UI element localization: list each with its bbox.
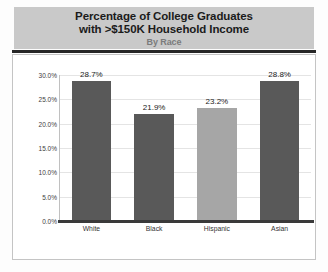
bar (197, 108, 237, 221)
x-axis-category-labels: WhiteBlackHispanicAsian (60, 225, 311, 239)
title-banner: Percentage of College Graduates with >$1… (14, 7, 314, 49)
x-axis-category-label: Hispanic (204, 225, 230, 232)
plot-panel: 0.0%5.0%10.0%15.0%20.0%25.0%30.0% 28.7%2… (12, 54, 316, 260)
x-axis-category-label: Black (146, 225, 163, 232)
title-divider (12, 50, 316, 53)
plot-area: 28.7%21.9%23.2%28.8% (60, 75, 311, 221)
bar-group: 28.8% (260, 75, 300, 221)
y-axis-tick-labels: 0.0%5.0%10.0%15.0%20.0%25.0%30.0% (13, 75, 57, 221)
bar-value-label: 28.7% (80, 70, 103, 79)
bar-group: 28.7% (72, 75, 112, 221)
chart-subtitle: By Race (147, 37, 182, 47)
chart-title: Percentage of College Graduates with >$1… (75, 10, 253, 36)
y-axis-tick-label: 20.0% (15, 120, 57, 127)
x-axis-category-label: White (83, 225, 100, 232)
y-axis-tick-label: 10.0% (15, 169, 57, 176)
bar-value-label: 23.2% (206, 97, 229, 106)
y-axis-tick-label: 0.0% (15, 218, 57, 225)
bar (134, 114, 174, 221)
chart-figure: Percentage of College Graduates with >$1… (0, 0, 328, 272)
y-axis-tick-label: 5.0% (15, 193, 57, 200)
bar-group: 21.9% (134, 75, 174, 221)
bar-group: 23.2% (197, 75, 237, 221)
x-axis-category-label: Asian (271, 225, 288, 232)
bar-value-label: 21.9% (143, 103, 166, 112)
chart-title-line-2: with >$150K Household Income (79, 23, 249, 35)
y-axis-line (59, 75, 60, 221)
x-axis-line (58, 220, 314, 223)
y-axis-tick-label: 15.0% (15, 145, 57, 152)
y-axis-tick-label: 25.0% (15, 96, 57, 103)
bar (72, 81, 112, 221)
y-axis-tick-label: 30.0% (15, 72, 57, 79)
bar-value-label: 28.8% (268, 70, 291, 79)
bar (260, 81, 300, 221)
chart-title-line-1: Percentage of College Graduates (75, 10, 253, 22)
